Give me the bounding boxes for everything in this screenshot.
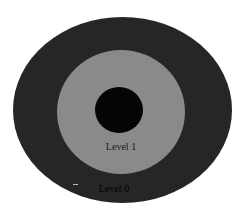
level-0-label: Level 0	[99, 183, 129, 194]
level-1-label: Level 1	[106, 141, 136, 152]
stray-mark	[73, 184, 78, 185]
core-circle	[95, 87, 143, 133]
